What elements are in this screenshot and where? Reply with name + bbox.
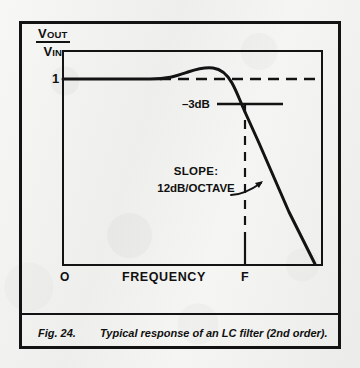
x-axis-origin-label: O [60,271,69,283]
minus-3db-label: –3dB [182,99,210,111]
y-tick-label-one: 1 [52,72,59,85]
y-axis-numerator: VOUT [36,27,70,43]
plot-frame [63,51,322,265]
x-axis-cutoff-label: F [241,271,249,284]
y-axis-denominator: VIN [36,43,70,58]
slope-annotation-line1: SLOPE: [148,166,244,178]
figure-number: Fig. 24. [38,327,100,339]
x-axis-title: FREQUENCY [122,271,206,284]
slope-annotation: SLOPE: 12dB/OCTAVE [148,166,244,194]
figure-caption-text: Typical response of an LC filter (2nd or… [100,327,328,339]
y-axis-numerator-subscript: OUT [47,29,68,40]
slope-annotation-line2: 12dB/OCTAVE [148,183,244,195]
figure-page: VOUT VIN 1 –3dB SLOPE: 12dB/OCTAVE O FRE… [0,0,360,368]
caption-divider [22,313,338,315]
y-axis-ratio-label: VOUT VIN [36,27,70,58]
y-axis-denominator-subscript: IN [52,47,62,58]
figure-caption: Fig. 24.Typical response of an LC filter… [38,327,328,339]
